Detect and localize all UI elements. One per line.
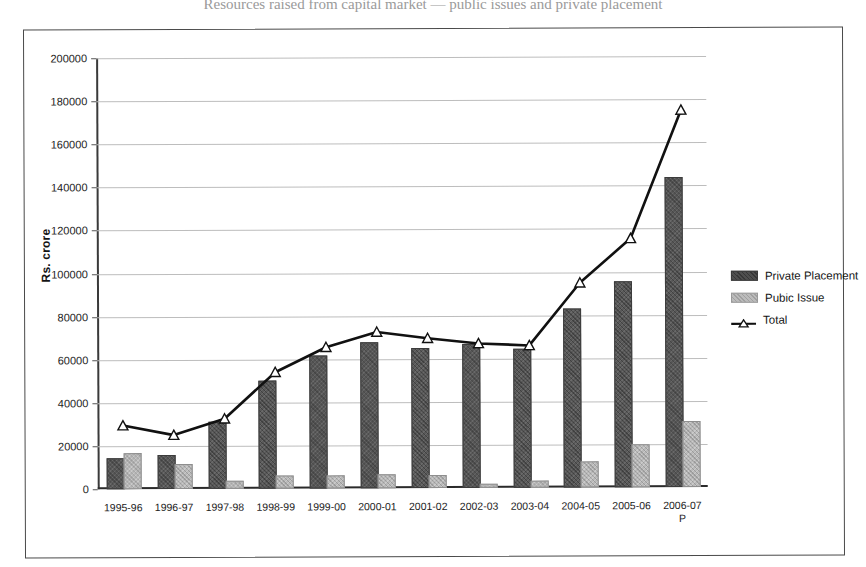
- chart-figure-frame: Rs. crore 200000180000160000140000120000…: [23, 26, 845, 558]
- bar-public-issue: [479, 484, 497, 488]
- y-tick-label: 120000: [51, 225, 88, 237]
- bar-group: [299, 57, 351, 488]
- legend-label: Total: [763, 313, 787, 325]
- x-tick-label-text: 2000-01: [358, 500, 397, 512]
- x-tick-label-text: 2006-07: [663, 499, 702, 511]
- bar-public-issue: [225, 480, 243, 489]
- bar-private-placement: [208, 422, 226, 489]
- x-tick-label-text: 2002-03: [460, 500, 499, 512]
- x-tick-label-text: 1999-00: [307, 500, 346, 512]
- bar-private-placement: [360, 342, 379, 488]
- x-tick-label-text: 1995-96: [104, 501, 143, 513]
- legend-item: Pubic Issue: [731, 287, 863, 307]
- chart-legend: Private PlacementPubic IssueTotal: [731, 265, 863, 332]
- x-tick-label: 1995-96: [104, 501, 143, 514]
- y-tick-label: 20000: [58, 440, 89, 452]
- x-tick-label: 2000-01: [358, 500, 397, 513]
- bar-public-issue: [683, 421, 701, 487]
- legend-label: Private Placement: [765, 269, 858, 281]
- x-tick-label: 1997-98: [206, 501, 245, 514]
- y-tick-label: 140000: [51, 182, 88, 194]
- bar-public-issue: [327, 476, 345, 489]
- legend-item: Total: [731, 309, 863, 329]
- bar-private-placement: [614, 282, 633, 488]
- bar-public-issue: [429, 475, 447, 488]
- bar-private-placement: [563, 309, 582, 488]
- legend-swatch-public-icon: [731, 292, 758, 302]
- plot-area: 2000001800001600001400001200001000008000…: [96, 56, 708, 489]
- y-tick-label: 200000: [50, 52, 87, 64]
- y-tick-label: 0: [83, 483, 89, 495]
- x-tick-label-sublabel: P: [663, 512, 702, 525]
- bar-group: [604, 56, 656, 487]
- y-tick-label: 160000: [51, 139, 88, 151]
- x-tick-label: 2006-07P: [663, 499, 702, 525]
- bar-public-issue: [530, 480, 548, 487]
- bar-private-placement: [665, 177, 684, 487]
- x-tick-label-text: 2005-06: [612, 499, 651, 511]
- x-tick-label: 2004-05: [561, 499, 600, 512]
- x-tick-label: 2005-06: [612, 499, 651, 512]
- bar-group: [554, 56, 606, 487]
- x-tick-label-text: 2004-05: [561, 499, 600, 511]
- chart-canvas: Rs. crore 200000180000160000140000120000…: [24, 27, 844, 557]
- x-tick-label-text: 1996-97: [155, 501, 194, 513]
- bar-public-issue: [276, 476, 294, 489]
- bar-public-issue: [174, 464, 192, 489]
- bar-group: [655, 56, 707, 487]
- x-tick-label-text: 1997-98: [206, 501, 245, 513]
- bar-private-placement: [462, 344, 481, 488]
- y-tick-label: 60000: [58, 354, 89, 366]
- y-tick-mark: [93, 489, 98, 490]
- x-tick-label: 1998-99: [256, 501, 295, 514]
- bar-private-placement: [107, 458, 125, 489]
- x-tick-label: 2003-04: [511, 500, 550, 513]
- y-tick-label: 40000: [58, 397, 89, 409]
- bar-group: [350, 57, 402, 488]
- x-tick-label: 1996-97: [155, 501, 194, 514]
- bar-group: [96, 58, 148, 489]
- cut-off-caption: Resources raised from capital market — p…: [0, 0, 866, 14]
- bar-public-issue: [632, 444, 650, 487]
- x-tick-label: 2001-02: [409, 500, 448, 513]
- y-tick-label: 100000: [51, 268, 88, 280]
- x-tick-label: 2002-03: [460, 500, 499, 513]
- bar-group: [452, 57, 504, 488]
- x-tick-label-text: 2001-02: [409, 500, 448, 512]
- bar-private-placement: [259, 381, 277, 489]
- bar-group: [147, 58, 199, 489]
- legend-swatch-total-icon: [731, 314, 756, 324]
- y-tick-label: 80000: [57, 311, 88, 323]
- x-tick-label-text: 2003-04: [511, 500, 550, 512]
- x-tick-label-text: 1998-99: [256, 501, 295, 513]
- bars-layer: [96, 56, 706, 58]
- legend-swatch-private-icon: [731, 270, 758, 280]
- bar-group: [401, 57, 453, 488]
- x-tick-label: 1999-00: [307, 500, 346, 513]
- bar-private-placement: [411, 348, 430, 488]
- legend-label: Pubic Issue: [765, 291, 824, 303]
- legend-item: Private Placement: [731, 265, 863, 285]
- bar-group: [249, 58, 301, 489]
- y-tick-label: 180000: [51, 95, 88, 107]
- bar-public-issue: [378, 474, 396, 488]
- bar-group: [503, 57, 555, 488]
- bar-group: [198, 58, 250, 489]
- bar-public-issue: [124, 453, 142, 490]
- bar-public-issue: [581, 462, 599, 488]
- bar-private-placement: [513, 349, 532, 488]
- bar-private-placement: [157, 455, 175, 489]
- bar-private-placement: [309, 355, 328, 489]
